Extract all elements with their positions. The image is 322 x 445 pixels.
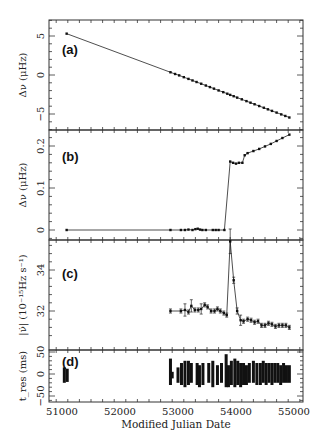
data-point [180, 310, 182, 312]
residual-column [198, 365, 201, 387]
data-point [278, 324, 280, 326]
residual-column [183, 361, 186, 387]
ytick-label: −5 [35, 107, 46, 122]
data-point [252, 150, 254, 152]
data-point [229, 94, 231, 96]
panel-a: 50−5Δν (μHz)(a) [17, 20, 303, 130]
residual-column [239, 363, 242, 387]
data-point [205, 229, 207, 231]
residual-column [207, 363, 210, 383]
residual-column [288, 365, 291, 383]
data-point [229, 160, 231, 162]
data-point [258, 148, 260, 150]
residual-column [230, 361, 233, 385]
data-point [229, 240, 231, 242]
panel-label: (c) [62, 266, 78, 281]
residual-column [245, 365, 248, 385]
residual-column [276, 363, 279, 383]
data-point [242, 320, 244, 322]
data-point [246, 152, 248, 154]
data-point [222, 91, 224, 93]
data-point [288, 133, 290, 135]
residual-column [285, 365, 288, 383]
residual-column [236, 361, 239, 385]
data-point [209, 86, 211, 88]
residual-column [227, 365, 230, 387]
residual-column [216, 365, 219, 385]
data-point [238, 162, 240, 164]
data-point [245, 100, 247, 102]
data-point [197, 309, 199, 311]
data-point [213, 87, 215, 89]
ytick-label: 5 [35, 33, 46, 39]
residual-column [273, 363, 276, 383]
data-point [253, 103, 255, 105]
data-point [258, 105, 260, 107]
panel-b: 0.20.10Δν (μHz)(b) [17, 130, 303, 240]
data-point [219, 310, 221, 312]
data-point [178, 74, 180, 76]
data-point [183, 76, 185, 78]
data-point [223, 229, 225, 231]
data-point [169, 229, 171, 231]
data-point [200, 308, 202, 310]
data-point [201, 229, 203, 231]
data-point [264, 145, 266, 147]
xtick-label: 51000 [46, 406, 78, 417]
data-point [260, 324, 262, 326]
series-line [170, 241, 289, 327]
data-point [187, 228, 189, 230]
data-point [267, 108, 269, 110]
data-point [191, 79, 193, 81]
data-point [250, 319, 252, 321]
data-point [239, 319, 241, 321]
data-point [232, 95, 234, 97]
panel-label: (b) [62, 149, 79, 164]
residual-column [268, 363, 271, 383]
residual-column [279, 365, 282, 385]
data-point [206, 306, 208, 308]
ytick-label: 0 [35, 227, 46, 233]
data-point [288, 116, 290, 118]
xtick-label: 55000 [278, 406, 310, 417]
data-point [284, 115, 286, 117]
residual-column [259, 363, 262, 385]
ytick-label: 50 [35, 346, 46, 359]
y-axis-label: Δν (μHz) [17, 53, 28, 98]
data-point [263, 107, 265, 109]
data-point [281, 324, 283, 326]
data-point [194, 228, 196, 230]
data-point [264, 324, 266, 326]
residual-column [270, 363, 273, 385]
data-point [236, 310, 238, 312]
panel-c: 3432|ν̇| (10⁻¹⁵Hz s⁻¹)(c) [17, 229, 303, 350]
data-point [280, 113, 282, 115]
ytick-label: −50 [35, 385, 46, 406]
data-point [217, 89, 219, 91]
data-point [236, 96, 238, 98]
data-point [184, 309, 186, 311]
data-point [169, 71, 171, 73]
data-point [212, 229, 214, 231]
data-point [65, 32, 67, 34]
data-point [65, 229, 67, 231]
ytick-label: 32 [35, 305, 46, 318]
data-point [210, 310, 212, 312]
residual-column [248, 363, 251, 383]
data-point [235, 162, 237, 164]
data-point [191, 229, 193, 231]
data-point [205, 84, 207, 86]
data-point [180, 229, 182, 231]
data-point [199, 228, 201, 230]
data-point [187, 78, 189, 80]
data-point [194, 309, 196, 311]
data-point [270, 143, 272, 145]
residual-column [282, 363, 285, 383]
data-point [197, 228, 199, 230]
data-point [288, 326, 290, 328]
data-point [184, 229, 186, 231]
data-point [257, 320, 259, 322]
data-point [232, 162, 234, 164]
data-point [267, 322, 269, 324]
data-point [190, 305, 192, 307]
